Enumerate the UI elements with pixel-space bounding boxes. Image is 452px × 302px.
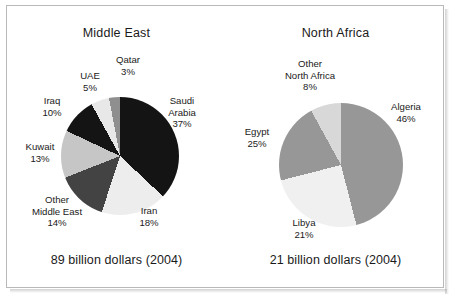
slice-label-other-north-africa-pct: 8% [263, 81, 357, 93]
chart-panel-middle-east: Middle East Qatar 3% UAE 5% Iraq 10% Kuw… [7, 6, 226, 287]
slice-label-saudi-arabia-name2: Arabia [157, 107, 207, 119]
slice-label-egypt: Egypt 25% [233, 126, 281, 149]
slice-label-algeria-name: Algeria [391, 101, 421, 112]
slice-label-libya: Libya 21% [280, 217, 328, 240]
chart-caption-north-africa: 21 billion dollars (2004) [226, 253, 445, 267]
slice-label-other-middle-east-name1: Other [45, 194, 69, 205]
slice-label-saudi-arabia-name1: Saudi [170, 95, 195, 106]
slice-label-qatar-name: Qatar [116, 54, 140, 65]
slice-label-uae: UAE 5% [69, 70, 111, 93]
slice-label-iran: Iran 18% [129, 205, 169, 228]
slice-label-other-north-africa: Other North Africa 8% [263, 58, 357, 93]
slice-label-libya-pct: 21% [280, 229, 328, 241]
slice-label-kuwait-pct: 13% [15, 153, 65, 165]
slice-label-saudi-arabia: Saudi Arabia 37% [157, 95, 207, 130]
slice-label-other-middle-east-name2: Middle East [17, 206, 97, 218]
slice-label-saudi-arabia-pct: 37% [157, 118, 207, 130]
slice-label-other-middle-east: Other Middle East 14% [17, 194, 97, 229]
slice-label-uae-name: UAE [80, 70, 100, 81]
figure-shadow-bottom [10, 289, 447, 293]
chart-panel-north-africa: North Africa Other North Africa 8% Alger… [226, 6, 445, 287]
slice-label-kuwait-name: Kuwait [26, 141, 55, 152]
slice-label-other-north-africa-name1: Other [298, 58, 322, 69]
slice-label-iraq: Iraq 10% [31, 95, 73, 118]
slice-label-iraq-name: Iraq [44, 95, 61, 106]
slice-label-algeria: Algeria 46% [380, 101, 432, 124]
slice-label-uae-pct: 5% [69, 82, 111, 94]
chart-title-north-africa: North Africa [226, 26, 445, 40]
slice-label-libya-name: Libya [293, 217, 316, 228]
chart-caption-middle-east: 89 billion dollars (2004) [7, 253, 226, 267]
slice-label-iraq-pct: 10% [31, 107, 73, 119]
slice-label-qatar: Qatar 3% [106, 54, 150, 77]
slice-label-egypt-pct: 25% [233, 138, 281, 150]
slice-label-iran-name: Iran [141, 205, 158, 216]
slice-label-other-middle-east-pct: 14% [17, 217, 97, 229]
slice-label-qatar-pct: 3% [106, 66, 150, 78]
slice-label-egypt-name: Egypt [245, 126, 270, 137]
chart-title-middle-east: Middle East [7, 26, 226, 40]
figure-shadow-right [445, 9, 449, 294]
slice-label-kuwait: Kuwait 13% [15, 141, 65, 164]
slice-label-algeria-pct: 46% [380, 113, 432, 125]
figure-frame: Middle East Qatar 3% UAE 5% Iraq 10% Kuw… [6, 5, 444, 288]
slice-label-iran-pct: 18% [129, 217, 169, 229]
slice-label-other-north-africa-name2: North Africa [263, 70, 357, 82]
